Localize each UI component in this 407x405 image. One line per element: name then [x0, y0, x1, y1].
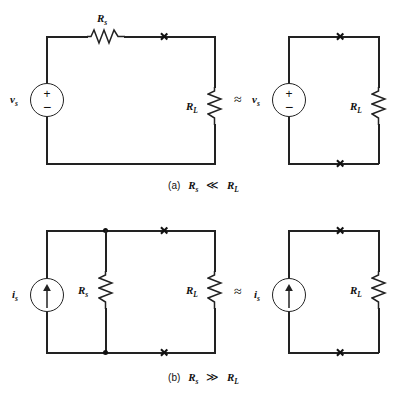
source-label-is: is [254, 288, 260, 303]
wire-left-upper [46, 36, 48, 83]
wire-bottom [288, 352, 379, 354]
wire-left-lower [46, 312, 48, 353]
wire-left-upper [46, 230, 48, 278]
current-arrow-icon [42, 284, 53, 308]
source-label-vs: vs [252, 93, 260, 108]
polarity-minus: − [273, 102, 305, 112]
caption-b-relation: ≫ [206, 370, 219, 384]
wire-left-lower [288, 312, 290, 353]
current-source-symbol [30, 278, 64, 312]
parallel-resistor-rs [98, 271, 114, 309]
cross-mark-icon [335, 226, 344, 235]
caption-b-tag: (b) [168, 372, 180, 383]
circuit-figure: + − vs RL Rs ≈ [0, 0, 407, 405]
cross-mark-icon [335, 159, 344, 168]
wire-right-lower [214, 124, 216, 164]
wire-top-right [124, 36, 215, 38]
approx-equal-b: ≈ [234, 284, 242, 300]
current-source-symbol [272, 278, 306, 312]
cross-mark-icon [159, 32, 168, 41]
junction-dot-bottom [103, 350, 108, 355]
cross-mark-icon [335, 32, 344, 41]
caption-a-right: RL [227, 179, 239, 191]
wire-left-lower [46, 117, 48, 164]
wire-right-upper [214, 36, 216, 88]
polarity-plus: + [31, 89, 63, 99]
load-resistor-rl [207, 87, 223, 125]
cross-mark-icon [159, 348, 168, 357]
series-label-rs: Rs [97, 12, 107, 27]
wire-left-upper [288, 230, 290, 278]
load-resistor-rl [371, 87, 387, 125]
voltage-source-symbol: + − [272, 83, 306, 117]
caption-b: (b) Rs ≫ RL [0, 370, 407, 386]
wire-mid-upper [105, 230, 107, 272]
cross-mark-icon [335, 348, 344, 357]
caption-a-tag: (a) [168, 180, 180, 191]
wire-right-upper [378, 230, 380, 272]
wire-right-upper [378, 36, 380, 88]
wire-bottom [288, 163, 379, 165]
load-resistor-rl [207, 271, 223, 309]
load-label-rl: RL [186, 284, 198, 299]
wire-bottom [46, 352, 216, 354]
wire-left-lower [288, 117, 290, 164]
series-resistor-rs [87, 28, 125, 45]
wire-left-upper [288, 36, 290, 83]
wire-mid-lower [105, 308, 107, 353]
wire-right-lower [378, 308, 380, 353]
voltage-source-symbol: + − [30, 83, 64, 117]
parallel-label-rs: Rs [78, 284, 88, 299]
approx-equal-a: ≈ [234, 92, 242, 108]
panel-b: is Rs RL ≈ [0, 200, 407, 405]
caption-b-right: RL [227, 371, 239, 383]
wire-top-left [46, 36, 88, 38]
wire-top [288, 230, 379, 232]
polarity-minus: − [31, 102, 63, 112]
load-label-rl: RL [350, 284, 362, 299]
caption-b-left: Rs [188, 371, 198, 383]
load-resistor-rl [371, 271, 387, 309]
source-label-vs: vs [10, 93, 18, 108]
wire-bottom [46, 163, 216, 165]
load-label-rl: RL [186, 100, 198, 115]
caption-a-left: Rs [188, 179, 198, 191]
wire-right-upper [214, 230, 216, 272]
wire-top [288, 36, 379, 38]
load-label-rl: RL [350, 100, 362, 115]
current-arrow-icon [284, 284, 295, 308]
panel-a: + − vs RL Rs ≈ [0, 0, 407, 200]
wire-right-lower [214, 308, 216, 353]
cross-mark-icon [159, 226, 168, 235]
caption-a-relation: ≪ [206, 178, 219, 192]
caption-a: (a) Rs ≪ RL [0, 178, 407, 194]
polarity-plus: + [273, 89, 305, 99]
wire-top [46, 230, 216, 232]
source-label-is: is [12, 288, 18, 303]
wire-right-lower [378, 124, 380, 164]
